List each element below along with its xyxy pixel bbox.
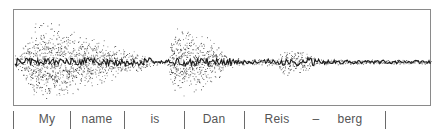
waveform-sample <box>299 61 300 62</box>
waveform-sample <box>98 46 99 47</box>
waveform-sample <box>295 55 296 56</box>
waveform-sample <box>198 57 199 58</box>
waveform-sample <box>80 48 81 49</box>
waveform-sample <box>85 80 86 81</box>
waveform-sample <box>48 47 49 48</box>
waveform-sample <box>284 52 285 53</box>
waveform-sample <box>27 62 28 63</box>
waveform-sample <box>87 82 88 83</box>
waveform-sample <box>290 70 291 71</box>
waveform-sample <box>38 72 39 73</box>
waveform-sample <box>137 55 138 56</box>
waveform-sample <box>57 66 58 67</box>
waveform-sample <box>176 66 177 67</box>
waveform-sample <box>39 83 40 84</box>
waveform-sample <box>187 47 188 48</box>
waveform-sample <box>424 63 425 64</box>
waveform-sample <box>149 65 150 66</box>
waveform-sample <box>308 70 309 71</box>
waveform-sample <box>26 69 27 70</box>
waveform-sample <box>72 63 73 64</box>
waveform-sample <box>73 42 74 43</box>
waveform-sample <box>104 75 105 76</box>
waveform-sample <box>59 59 60 60</box>
waveform-sample <box>211 81 212 82</box>
waveform-sample <box>183 39 184 40</box>
waveform-sample <box>193 65 194 66</box>
waveform-sample <box>193 49 194 50</box>
waveform-sample <box>144 64 145 65</box>
waveform-sample <box>47 68 48 69</box>
waveform-sample <box>403 63 404 64</box>
waveform-sample <box>74 56 75 57</box>
waveform-sample <box>294 56 295 57</box>
waveform-sample <box>35 24 36 25</box>
waveform-sample <box>170 65 171 66</box>
waveform-sample <box>73 70 74 71</box>
waveform-sample <box>266 60 267 61</box>
waveform-sample <box>204 58 205 59</box>
waveform-sample <box>184 96 185 97</box>
waveform-sample <box>207 81 208 82</box>
waveform-sample <box>81 48 82 49</box>
waveform-sample <box>65 65 66 66</box>
waveform-sample <box>30 56 31 57</box>
waveform-sample <box>172 61 173 62</box>
waveform-sample <box>47 93 48 94</box>
waveform-sample <box>98 75 99 76</box>
word-label-berg: berg <box>338 112 363 126</box>
waveform-sample <box>88 70 89 71</box>
waveform-sample <box>211 50 212 51</box>
waveform-sample <box>40 38 41 39</box>
waveform-sample <box>142 61 143 62</box>
waveform-sample <box>48 63 49 64</box>
waveform-sample <box>104 55 105 56</box>
waveform-sample <box>90 58 91 59</box>
waveform-sample <box>140 68 141 69</box>
waveform-sample <box>223 67 224 68</box>
waveform-sample <box>43 94 44 95</box>
waveform-sample <box>266 59 267 60</box>
waveform-sample <box>194 91 195 92</box>
waveform-sample <box>41 60 42 61</box>
waveform-sample <box>282 68 283 69</box>
waveform-sample <box>118 69 119 70</box>
waveform-sample <box>75 84 76 85</box>
waveform-sample <box>60 72 61 73</box>
waveform-sample <box>73 72 74 73</box>
waveform-sample <box>64 90 65 91</box>
waveform-sample <box>115 67 116 68</box>
waveform-sample <box>31 38 32 39</box>
waveform-sample <box>187 57 188 58</box>
waveform-sample <box>90 61 91 62</box>
waveform-sample <box>227 64 228 65</box>
waveform-sample <box>145 67 146 68</box>
waveform-sample <box>271 60 272 61</box>
waveform-sample <box>85 55 86 56</box>
waveform-sample <box>191 84 192 85</box>
waveform-sample <box>32 87 33 88</box>
waveform-sample <box>37 68 38 69</box>
waveform-sample <box>122 68 123 69</box>
waveform-sample <box>190 55 191 56</box>
waveform-sample <box>26 67 27 68</box>
waveform-sample <box>293 65 294 66</box>
waveform-sample <box>56 38 57 39</box>
waveform-sample <box>55 86 56 87</box>
waveform-sample <box>198 49 199 50</box>
waveform-sample <box>201 43 202 44</box>
waveform-sample <box>56 95 57 96</box>
waveform-sample <box>345 63 346 64</box>
waveform-sample <box>23 48 24 49</box>
waveform-sample <box>92 64 93 65</box>
waveform-sample <box>77 58 78 59</box>
waveform-sample <box>388 60 389 61</box>
waveform-sample <box>106 50 107 51</box>
waveform-sample <box>22 67 23 68</box>
waveform-sample <box>177 50 178 51</box>
waveform-sample <box>254 64 255 65</box>
waveform-sample <box>52 53 53 54</box>
waveform-sample <box>45 71 46 72</box>
waveform-sample <box>101 80 102 81</box>
waveform-sample <box>102 76 103 77</box>
